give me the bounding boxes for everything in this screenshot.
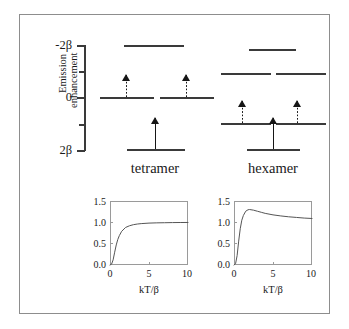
species-label-hexamer: hexamer <box>223 161 323 176</box>
hexamer-electron-arrow-plus1beta-b <box>297 101 298 123</box>
tetramer-level-plus2beta <box>127 149 185 151</box>
hexamer-level-minus1beta-b <box>276 73 326 75</box>
tetramer-level-minus2beta <box>124 45 184 47</box>
mo-energy-level-diagram: -2β 0 2β tetramer <box>20 15 331 183</box>
tetramer-level-zero-a <box>100 97 154 99</box>
tetramer-electron-arrow-zero-a <box>126 75 127 97</box>
tetramer-emission-plot: 1.5 1.0 0.5 0.0 0 5 10 kT/β <box>76 197 198 309</box>
hexamer-level-plus2beta <box>247 149 300 151</box>
energy-axis-tick-plus2beta <box>77 150 85 152</box>
figure-border: -2β 0 2β tetramer <box>19 14 330 314</box>
tetramer-level-zero-b <box>160 97 214 99</box>
hexamer-emission-curve <box>234 210 312 265</box>
hexamer-level-minus1beta-a <box>221 73 271 75</box>
plot-yaxis-title-line2: enhancement <box>69 53 80 108</box>
energy-axis-label-plus2beta: 2β <box>26 144 72 157</box>
tetramer-electron-arrow-plus2beta <box>155 118 156 149</box>
tetramer-curve-svg <box>76 197 198 309</box>
figure-root: -2β 0 2β tetramer <box>0 0 349 329</box>
hexamer-level-plus1beta-a <box>221 123 271 125</box>
hexamer-level-minus2beta <box>249 49 296 51</box>
tetramer-electron-arrow-zero-b <box>186 75 187 97</box>
hexamer-electron-arrow-plus1beta-a <box>242 101 243 123</box>
species-label-tetramer: tetramer <box>105 161 205 176</box>
energy-axis-label-minus2beta: -2β <box>26 39 72 52</box>
energy-axis-tick-minus1beta <box>79 71 85 73</box>
hexamer-level-plus1beta-b <box>276 123 326 125</box>
tetramer-emission-curve <box>110 222 188 265</box>
energy-axis-tick-plus1beta <box>79 124 85 126</box>
energy-axis-tick-minus2beta <box>77 45 85 47</box>
hexamer-emission-plot: 1.5 1.0 0.5 0.0 0 5 10 kT/β <box>200 197 322 309</box>
hexamer-curve-svg <box>200 197 322 309</box>
plot-yaxis-title-line1: Emission <box>58 54 69 93</box>
hexamer-electron-arrow-plus2beta <box>273 118 274 149</box>
